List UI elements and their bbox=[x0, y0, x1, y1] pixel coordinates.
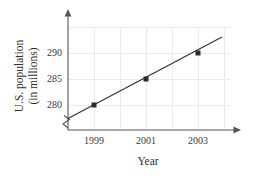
x-tick-label: 1999 bbox=[84, 135, 104, 146]
data-point-marker bbox=[144, 77, 149, 82]
population-line-chart: 290 285 280 1999 2001 2003 U.S. populati… bbox=[0, 0, 254, 177]
x-axis-title: Year bbox=[137, 155, 158, 167]
x-tick-label: 2003 bbox=[188, 135, 208, 146]
y-axis-title: U.S. population (in millions) bbox=[13, 39, 40, 112]
y-tick-labels: 290 285 280 bbox=[47, 47, 62, 110]
y-axis-title-line1: U.S. population bbox=[13, 39, 26, 112]
y-tick-label: 285 bbox=[47, 73, 62, 84]
chart-canvas: 290 285 280 1999 2001 2003 U.S. populati… bbox=[0, 0, 254, 177]
x-tick-label: 2001 bbox=[136, 135, 156, 146]
y-tick-label: 280 bbox=[47, 99, 62, 110]
data-point-marker bbox=[92, 103, 97, 108]
data-point-marker bbox=[196, 51, 201, 56]
x-tick-labels: 1999 2001 2003 bbox=[84, 135, 208, 146]
y-tick-label: 290 bbox=[47, 47, 62, 58]
y-axis-title-line2: (in millions) bbox=[27, 47, 40, 104]
